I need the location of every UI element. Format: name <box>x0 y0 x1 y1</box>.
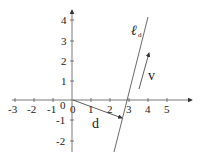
x-tick-label: 3 <box>126 103 132 115</box>
x-tick-label: -3 <box>8 103 18 115</box>
y-tick-label: 3 <box>61 35 67 47</box>
y-tick-label: 4 <box>61 14 67 26</box>
x-tick-label: -2 <box>27 103 36 115</box>
origin-label: 0 <box>60 99 66 111</box>
y-axis: -2 -1 1 2 3 4 0 <box>56 10 74 152</box>
x-axis: -3 -2 -1 0 1 2 3 4 5 <box>8 98 192 115</box>
y-tick-label: -1 <box>56 114 65 126</box>
y-tick-label: 2 <box>61 55 67 67</box>
x-tick-label: 0 <box>70 103 76 115</box>
y-tick-label: -2 <box>56 135 65 147</box>
line-label-subscript: d <box>138 31 142 39</box>
vector-v-label: v <box>148 68 155 83</box>
line-label: ℓ <box>131 23 137 38</box>
vector-d-label: d <box>92 116 99 131</box>
coordinate-diagram: -3 -2 -1 0 1 2 3 4 5 -2 -1 1 2 3 4 0 ℓ d… <box>0 0 200 158</box>
x-tick-label: 4 <box>145 103 151 115</box>
x-tick-label: 1 <box>88 103 94 115</box>
y-tick-label: 1 <box>61 75 67 87</box>
x-tick-label: 5 <box>164 103 170 115</box>
x-tick-label: -1 <box>47 103 56 115</box>
